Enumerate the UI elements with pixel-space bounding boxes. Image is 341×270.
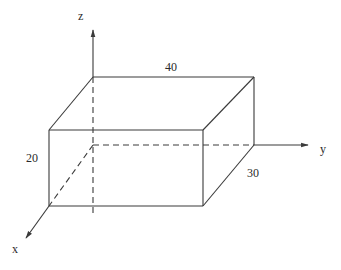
box-edges — [49, 77, 254, 206]
length-label: 40 — [165, 60, 177, 74]
y-axis-label: y — [320, 142, 326, 156]
z-axis-label: z — [78, 9, 83, 23]
height-label: 20 — [26, 151, 38, 165]
x-axis-label: x — [12, 242, 18, 256]
box-diagram: z y x 40 20 30 — [0, 0, 341, 270]
width-label: 30 — [247, 166, 259, 180]
